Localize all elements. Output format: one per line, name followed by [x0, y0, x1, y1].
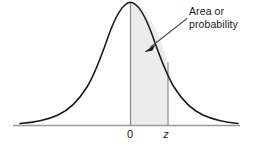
- normal-distribution-figure: Area or probability 0 z: [0, 0, 253, 149]
- annotation-line-1: Area or: [189, 5, 238, 18]
- area-probability-annotation: Area or probability: [189, 5, 238, 30]
- axis-tick-label-zero: 0: [123, 128, 137, 140]
- annotation-line-2: probability: [189, 18, 238, 31]
- axis-tick-label-z: z: [159, 128, 173, 140]
